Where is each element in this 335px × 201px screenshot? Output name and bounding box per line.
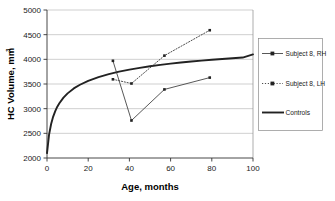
data-point-marker [163,54,166,57]
y-tick-label-4500: 4500 [23,31,41,40]
y-tick-label-3000: 3000 [23,105,41,114]
x-tick-label-0: 0 [45,164,50,173]
y-tick-label-5000: 5000 [23,6,41,15]
legend-swatch-marker-rh [271,52,275,56]
x-tick-label-20: 20 [84,164,93,173]
y-axis-title-text: HC Volume, mm [5,48,16,120]
legend-label-controls: Controls [286,109,311,116]
x-tick-label-40: 40 [125,164,134,173]
x-tick-label-80: 80 [207,164,216,173]
data-point-marker [130,82,133,85]
y-axis-ticks [44,10,48,158]
data-point-marker [163,88,166,91]
x-tick-label-100: 100 [246,164,260,173]
x-axis-tick-labels: 0 20 40 60 80 100 [45,164,260,173]
legend-label-subject-8-rh: Subject 8, RH [286,50,327,58]
data-point-marker [208,29,211,32]
data-point-marker [208,76,211,79]
data-point-marker [130,119,133,122]
y-tick-label-2500: 2500 [23,129,41,138]
data-point-marker [112,78,115,81]
data-point-marker [112,60,115,63]
y-tick-label-3500: 3500 [23,80,41,89]
figure-container: 5000 4500 4000 3500 3000 2500 2000 0 20 … [0,0,335,201]
x-axis-title-text: Age, months [121,181,179,192]
hc-volume-line-chart: 5000 4500 4000 3500 3000 2500 2000 0 20 … [0,0,335,201]
legend: Subject 8, RH Subject 8, LH Controls [259,39,327,131]
y-axis-tick-labels: 5000 4500 4000 3500 3000 2500 2000 [23,6,41,163]
legend-label-subject-8-lh: Subject 8, LH [286,80,326,88]
y-tick-label-2000: 2000 [23,154,41,163]
legend-swatch-marker-lh [271,82,275,86]
y-tick-label-4000: 4000 [23,55,41,64]
x-axis-ticks [47,158,253,162]
x-tick-label-60: 60 [166,164,175,173]
y-axis-title: HC Volume, mm 3 [5,48,16,120]
